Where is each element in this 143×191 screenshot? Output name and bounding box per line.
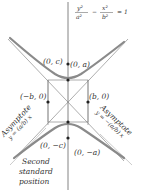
label-vertex-bottom: (0, −a)	[74, 148, 100, 157]
svg-text:a²: a²	[76, 13, 83, 20]
asymptote-parallel-right	[100, 134, 132, 165]
svg-text:Second: Second	[22, 157, 50, 166]
svg-text:x²: x²	[102, 4, 108, 11]
point-focus-bottom	[66, 136, 69, 139]
svg-text:position: position	[19, 177, 49, 186]
svg-text:b²: b²	[102, 13, 109, 20]
svg-text:−: −	[92, 8, 97, 15]
svg-text:y²: y²	[76, 4, 83, 12]
label-vertex-top: (0, a)	[70, 60, 90, 69]
svg-text:= 1: = 1	[117, 8, 128, 15]
hyperbola-upper-branch	[10, 38, 124, 78]
point-vertex-bottom	[66, 120, 69, 123]
asymptote-left-label: Asymptote y = (a/b) x	[0, 102, 39, 144]
label-focus-top: (0, c)	[43, 57, 63, 66]
point-vertex-top	[66, 78, 69, 81]
hyperbola-diagram: y² a² − x² b² = 1 (0, c) (0, a) (−b, 0) …	[0, 0, 143, 191]
asymptote-right-label: Asymptote y = −(a/b) x	[93, 102, 135, 142]
point-left-b	[46, 100, 49, 103]
label-right-b: (b, 0)	[89, 92, 109, 101]
svg-text:standard: standard	[19, 167, 53, 176]
caption: Second standard position	[19, 157, 53, 186]
equation: y² a² − x² b² = 1	[75, 4, 128, 20]
label-left-b: (−b, 0)	[20, 92, 47, 101]
label-focus-bottom: (0, −c)	[40, 141, 66, 150]
